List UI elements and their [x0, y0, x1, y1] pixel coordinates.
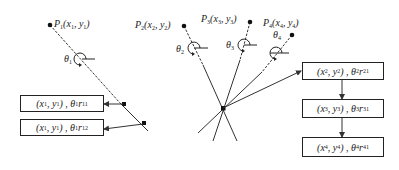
p2-dot — [182, 24, 187, 29]
theta1-label: θ1 — [64, 54, 72, 65]
p1-label: P1(x1, y1) — [54, 19, 90, 30]
right-box-3: (x4, y4) , θ4r41 — [302, 137, 384, 157]
p1-dot — [48, 23, 53, 28]
left-box-1: (x1, y1) , θ1r11 — [20, 95, 104, 112]
theta2-label: θ2 — [176, 44, 184, 55]
theta4-label: θ4 — [273, 30, 281, 41]
theta3-angle-icon — [238, 39, 257, 53]
p3-dot — [248, 20, 253, 25]
p4-label: P4(x4, y4) — [263, 18, 299, 29]
p3-label: P3(x3, y3) — [201, 14, 237, 25]
theta3-label: θ3 — [226, 40, 234, 51]
p2-label: P2(x2, y2) — [135, 20, 171, 31]
right-box-1: (x2, y2) , θ2r21 — [302, 62, 384, 80]
p4-dot — [290, 33, 295, 38]
arrow-to-left-box-2 — [104, 124, 143, 129]
left-box-2: (x1, y1) , θ1r12 — [20, 119, 104, 136]
p1-ray — [50, 25, 148, 131]
theta2-angle-icon — [188, 42, 208, 56]
theta4-angle-icon — [270, 47, 289, 61]
right-box-2: (x3, y3) , θ3r31 — [302, 99, 384, 118]
p4-ray — [198, 35, 292, 133]
